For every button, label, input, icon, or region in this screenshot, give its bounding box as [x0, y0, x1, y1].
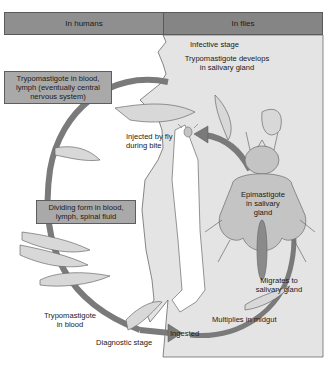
header-in-flies: In flies — [163, 12, 323, 35]
label-line: Trypomastigote — [30, 311, 110, 320]
header-in-humans: In humans — [4, 12, 164, 35]
label-line: Migrates to — [244, 276, 314, 285]
label-ingested: Ingested — [170, 329, 199, 338]
label-trypomastigote-blood: Trypomastigote in blood — [30, 311, 110, 329]
label-line: lymph (eventually central — [8, 83, 108, 92]
label-line: gland — [238, 208, 288, 217]
label-line: lymph, spinal fluid — [40, 212, 132, 221]
life-cycle-diagram: In humans In flies Trypomastigote in blo… — [0, 0, 331, 370]
label-line: Injected by fly — [126, 132, 172, 141]
label-line: in blood — [30, 320, 110, 329]
label-diagnostic-stage: Diagnostic stage — [96, 338, 152, 347]
label-epimastigote: Epimastigote in salivary gland — [238, 190, 288, 217]
label-injected-by-fly: Injected by fly during bite — [126, 132, 172, 150]
label-trypomastigote-cns: Trypomastigote in blood, lymph (eventual… — [4, 71, 112, 104]
label-migrates: Migrates to salivary gland — [244, 276, 314, 294]
header-in-humans-label: In humans — [65, 19, 102, 28]
diagnostic-arrow — [140, 330, 170, 333]
label-line: Trypomastigote in blood, — [8, 74, 108, 83]
label-line: in salivary — [238, 199, 288, 208]
label-multiplies: Multiplies in midgut — [212, 315, 277, 324]
label-line: nervous system) — [8, 92, 108, 101]
label-trypomastigote-develops: Trypomastigote develops in salivary glan… — [172, 54, 282, 72]
label-line: Trypomastigote develops — [172, 54, 282, 63]
header-in-flies-label: In flies — [231, 19, 254, 28]
label-line: Dividing form in blood, — [40, 203, 132, 212]
label-line: in salivary gland — [172, 63, 282, 72]
label-line: Epimastigote — [238, 190, 288, 199]
label-infective-stage: Infective stage — [190, 40, 239, 49]
label-dividing-form: Dividing form in blood, lymph, spinal fl… — [36, 200, 136, 224]
label-line: salivary gland — [244, 285, 314, 294]
label-line: during bite — [126, 141, 172, 150]
